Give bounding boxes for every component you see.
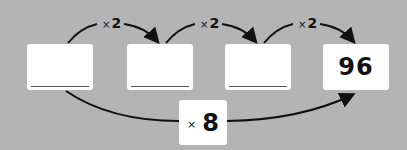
answer-line: [131, 86, 189, 87]
step-label-3: ×2: [298, 15, 317, 31]
times-sign: ×: [200, 19, 208, 30]
answer-box-2[interactable]: [127, 44, 193, 90]
result-box: 96: [323, 44, 389, 90]
factor: 2: [307, 15, 317, 31]
times-sign: ×: [298, 19, 306, 30]
step-label-2: ×2: [200, 15, 219, 31]
answer-box-1[interactable]: [27, 44, 93, 90]
times-sign: ×: [187, 118, 196, 131]
times-sign: ×: [102, 19, 110, 30]
answer-line: [229, 86, 287, 87]
factor: 2: [209, 15, 219, 31]
step-label-1: ×2: [102, 15, 121, 31]
answer-box-3[interactable]: [225, 44, 291, 90]
overall-factor: 8: [202, 109, 219, 137]
answer-line: [31, 86, 89, 87]
factor: 2: [111, 15, 121, 31]
overall-multiplier-box: × 8: [179, 100, 227, 145]
